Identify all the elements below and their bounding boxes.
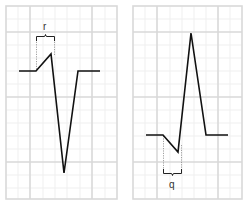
r-wave-bracket	[37, 35, 55, 42]
q-wave-label: q	[169, 179, 175, 190]
right-ecg-trace	[146, 33, 228, 152]
left-ecg-trace	[19, 54, 100, 173]
right-panel: q	[133, 6, 242, 199]
left-grid-major	[6, 6, 117, 199]
left-grid-minor	[6, 6, 117, 199]
right-grid-minor	[133, 6, 242, 199]
ecg-diagram: r	[0, 0, 247, 204]
right-grid-major	[133, 6, 242, 199]
r-wave-label: r	[43, 21, 47, 32]
left-panel: r	[6, 6, 117, 199]
